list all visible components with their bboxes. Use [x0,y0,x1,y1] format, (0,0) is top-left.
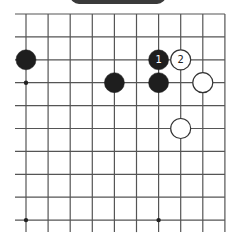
move-number-label: 1 [155,54,161,65]
star-point [24,81,28,85]
black-stone [149,73,169,93]
black-stone [16,50,36,70]
go-board: 12 [0,0,241,241]
star-point [24,218,28,222]
black-stone [104,73,124,93]
star-point [156,218,160,222]
white-stone [171,119,191,139]
diagram-caption [0,236,241,241]
move-number-label: 2 [178,54,184,65]
white-stone [193,73,213,93]
